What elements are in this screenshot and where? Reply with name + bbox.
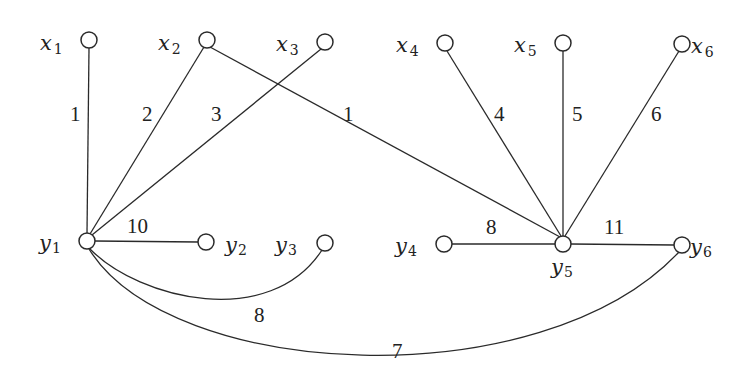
node-labels: x1 x2 x3 x4 x5 x6 y1 y2 y3 y4 y5 y6 bbox=[38, 31, 714, 280]
label-y4: y4 bbox=[394, 234, 417, 259]
node-y2 bbox=[198, 234, 214, 250]
edge-y1-y2 bbox=[95, 241, 198, 242]
label-y5: y5 bbox=[550, 255, 573, 280]
edge-y5-y6 bbox=[571, 244, 674, 245]
label-x3: x3 bbox=[276, 32, 299, 58]
edge-x6-y5 bbox=[565, 51, 679, 236]
weight-y1-y6: 7 bbox=[392, 339, 403, 363]
edge-x2-y1 bbox=[90, 47, 204, 234]
label-y3: y3 bbox=[274, 233, 297, 258]
label-x1: x1 bbox=[40, 31, 63, 57]
label-y6: y6 bbox=[689, 235, 712, 260]
node-y3 bbox=[317, 235, 333, 251]
node-y1 bbox=[79, 233, 95, 249]
nodes bbox=[79, 32, 690, 253]
graph-diagram: 1 2 3 1 4 5 6 10 8 11 8 7 x1 x2 x3 x4 x5… bbox=[0, 0, 755, 389]
node-x3 bbox=[317, 34, 333, 50]
weight-y5-y6: 11 bbox=[604, 215, 624, 239]
node-y6 bbox=[674, 237, 690, 253]
weight-x2-y1: 2 bbox=[142, 102, 153, 126]
edge-weights: 1 2 3 1 4 5 6 10 8 11 8 7 bbox=[70, 102, 662, 363]
node-y5 bbox=[555, 236, 571, 252]
label-y1: y1 bbox=[38, 231, 61, 256]
weight-x4-y5: 4 bbox=[494, 102, 505, 126]
weight-y4-y5: 8 bbox=[486, 215, 497, 239]
edge-x1-y1 bbox=[87, 48, 89, 233]
edges bbox=[87, 47, 679, 355]
weight-y1-y2: 10 bbox=[127, 214, 148, 238]
node-x1 bbox=[81, 32, 97, 48]
weight-x2-y5: 1 bbox=[343, 102, 354, 126]
weight-y1-y3: 8 bbox=[254, 303, 265, 327]
node-x6 bbox=[674, 36, 690, 52]
node-x5 bbox=[555, 35, 571, 51]
node-x2 bbox=[199, 32, 215, 48]
label-x4: x4 bbox=[396, 33, 419, 59]
weight-x3-y1: 3 bbox=[211, 102, 222, 126]
graph-svg: 1 2 3 1 4 5 6 10 8 11 8 7 x1 x2 x3 x4 x5… bbox=[0, 0, 755, 389]
edge-y1-y6-curve bbox=[89, 249, 679, 355]
label-x2: x2 bbox=[158, 31, 181, 57]
label-x6: x6 bbox=[691, 34, 714, 60]
edge-x4-y5 bbox=[447, 51, 561, 236]
node-y4 bbox=[436, 236, 452, 252]
weight-x1-y1: 1 bbox=[70, 102, 81, 126]
node-x4 bbox=[437, 35, 453, 51]
edge-x3-y1 bbox=[92, 49, 321, 235]
label-x5: x5 bbox=[514, 33, 537, 59]
label-y2: y2 bbox=[224, 233, 247, 258]
edge-x2-y5 bbox=[210, 47, 560, 237]
weight-x6-y5: 6 bbox=[651, 102, 662, 126]
weight-x5-y5: 5 bbox=[572, 102, 583, 126]
